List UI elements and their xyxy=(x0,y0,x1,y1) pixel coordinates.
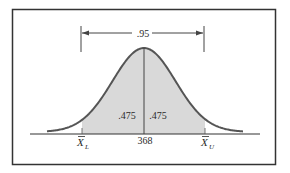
lower-bound-subscript: L xyxy=(84,143,89,151)
upper-bound-symbol: X xyxy=(200,136,209,148)
right-area-label: .475 xyxy=(149,110,167,121)
lower-bound-symbol: X xyxy=(76,136,85,148)
center-value-label: 368 xyxy=(138,135,153,146)
interval-probability-label: .95 xyxy=(137,28,150,39)
left-area-label: .475 xyxy=(118,110,136,121)
normal-curve-figure: .95 .475 .475 368 X L X U xyxy=(0,0,290,173)
